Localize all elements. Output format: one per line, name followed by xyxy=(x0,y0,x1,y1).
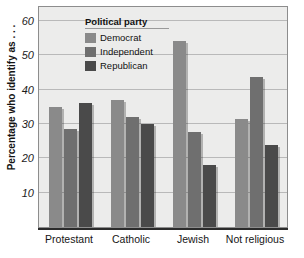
x-tick-label-catholic: Catholic xyxy=(100,233,162,245)
y-tick-label: 20 xyxy=(8,153,34,164)
legend-item-republican: Republican xyxy=(85,59,169,72)
bar xyxy=(111,100,124,227)
y-tick-label: 60 xyxy=(8,16,34,27)
bar xyxy=(250,77,263,227)
bar xyxy=(235,119,248,227)
legend-swatch-independent xyxy=(85,47,96,57)
bar xyxy=(49,107,62,227)
bar xyxy=(64,129,77,227)
bar xyxy=(203,165,216,227)
legend-swatch-democrat xyxy=(85,33,96,43)
x-tick-label-jewish: Jewish xyxy=(162,233,224,245)
bar-shadow xyxy=(278,147,280,228)
plot-area: Political party Democrat Independent Rep… xyxy=(38,6,288,228)
y-tick-label: 30 xyxy=(8,119,34,130)
x-tick-label-not-religious: Not religious xyxy=(224,233,286,245)
legend-swatch-republican xyxy=(85,61,96,71)
y-tick-label: 40 xyxy=(8,85,34,96)
bar xyxy=(141,124,154,227)
legend: Political party Democrat Independent Rep… xyxy=(85,16,169,73)
bar-chart: Percentage who identify as . . . 10 20 3… xyxy=(0,0,304,258)
legend-label-independent: Independent xyxy=(100,46,153,57)
legend-title: Political party xyxy=(85,16,169,29)
legend-item-independent: Independent xyxy=(85,45,169,58)
bar xyxy=(188,132,201,227)
x-tick-label-protestant: Protestant xyxy=(38,233,100,245)
y-tick-label: 10 xyxy=(8,188,34,199)
bar-shadow xyxy=(216,167,218,227)
bar xyxy=(79,103,92,227)
bar xyxy=(265,145,278,228)
bar xyxy=(173,41,186,227)
bar-shadow xyxy=(154,126,156,227)
bar xyxy=(126,117,139,227)
legend-label-democrat: Democrat xyxy=(100,32,141,43)
y-tick-label: 50 xyxy=(8,50,34,61)
legend-label-republican: Republican xyxy=(100,60,148,71)
legend-item-democrat: Democrat xyxy=(85,31,169,44)
x-axis-line xyxy=(38,228,288,230)
x-axis-tick-labels: Protestant Catholic Jewish Not religious xyxy=(38,233,288,253)
bar-shadow xyxy=(92,105,94,227)
